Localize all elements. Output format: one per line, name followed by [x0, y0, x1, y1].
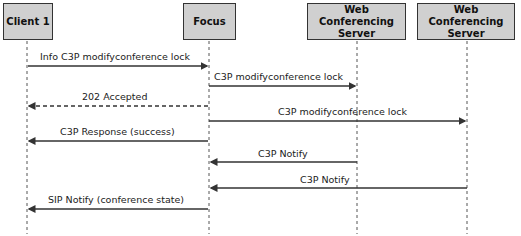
message-label-7: C3P Notify — [300, 174, 350, 185]
participant-label: Client 1 — [6, 16, 49, 28]
participant-wcs1: Web Conferencing Server — [307, 3, 406, 40]
participant-client1: Client 1 — [3, 3, 53, 40]
participant-focus: Focus — [183, 3, 236, 40]
message-label-5: C3P Response (success) — [60, 126, 175, 137]
participant-label: Focus — [193, 16, 225, 28]
participant-label: Web Conferencing Server — [308, 4, 405, 40]
message-label-4: C3P modifyconference lock — [278, 106, 407, 117]
participant-label: Web Conferencing Server — [418, 4, 514, 40]
participant-wcs2: Web Conferencing Server — [417, 3, 515, 40]
message-label-2: C3P modifyconference lock — [214, 71, 343, 82]
message-label-8: SIP Notify (conference state) — [48, 194, 184, 205]
message-label-3: 202 Accepted — [82, 91, 147, 102]
message-label-6: C3P Notify — [258, 148, 308, 159]
message-label-1: Info C3P modifyconference lock — [40, 51, 190, 62]
